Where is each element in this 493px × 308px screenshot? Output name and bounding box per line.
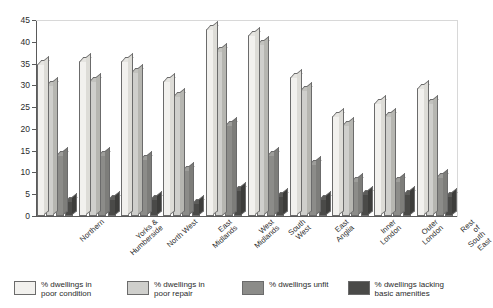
bar-side-face	[400, 173, 405, 215]
bar-side-face	[189, 162, 194, 215]
bar-group	[331, 20, 373, 216]
y-tick-label: 20	[21, 125, 30, 134]
bar-group	[78, 20, 120, 216]
bar-side-face	[307, 82, 312, 215]
y-tick-label: 40	[21, 38, 30, 47]
bar-side-face	[381, 95, 386, 215]
legend-item[interactable]: % dwellings unfit	[242, 280, 344, 295]
bar-side-face	[452, 188, 457, 215]
bar-group	[36, 20, 78, 216]
bar-side-face	[180, 88, 185, 215]
bar-0	[290, 77, 298, 216]
bar-side-face	[115, 191, 120, 215]
y-tick-label: 10	[21, 168, 30, 177]
y-tick-label: 35	[21, 59, 30, 68]
bar-0	[121, 61, 129, 216]
bar-side-face	[44, 56, 49, 215]
bar-side-face	[358, 173, 363, 215]
bar-0	[332, 116, 340, 216]
bar-group	[289, 20, 331, 216]
legend-label: % dwellings lacking basic amenities	[375, 280, 444, 299]
bar-side-face	[316, 156, 321, 215]
y-tick-label: 30	[21, 81, 30, 90]
bar-side-face	[96, 73, 101, 215]
legend-swatch-poor-repair	[127, 281, 149, 295]
bar-group	[120, 20, 162, 216]
legend-item[interactable]: % dwellings in poor condition	[14, 280, 123, 299]
x-category-label: West Midlands	[248, 218, 282, 251]
bar-side-face	[128, 53, 133, 215]
x-category-label: South West	[287, 218, 313, 243]
bar-side-face	[443, 169, 448, 215]
bar-side-face	[326, 191, 331, 215]
legend-swatch-lacking-amenities	[348, 281, 370, 295]
bar-side-face	[391, 108, 396, 215]
legend-label: % dwellings in poor repair	[154, 280, 205, 299]
legend-label: % dwellings in poor condition	[41, 280, 92, 299]
bar-group	[374, 20, 416, 216]
y-tick-label: 45	[21, 16, 30, 25]
bar-side-face	[274, 147, 279, 215]
legend-swatch-unfit	[242, 281, 264, 295]
bar-side-face	[86, 53, 91, 215]
x-category-label: East Anglia	[330, 218, 357, 244]
bar-side-face	[424, 80, 429, 215]
bar-side-face	[297, 69, 302, 215]
y-tick-label: 15	[21, 146, 30, 155]
bar-side-face	[241, 182, 246, 215]
x-category-label: Outer London	[415, 218, 445, 247]
x-category-label: Yorks & Humberside	[124, 218, 165, 258]
bar-group	[416, 20, 458, 216]
bar-side-face	[213, 21, 218, 215]
y-tick-mark	[32, 216, 36, 217]
bar-side-face	[157, 191, 162, 215]
bar-side-face	[147, 151, 152, 215]
x-category-label: North West	[165, 218, 199, 249]
bar-side-face	[433, 95, 438, 215]
bar-0	[417, 88, 425, 216]
y-tick-label: 25	[21, 103, 30, 112]
bar-side-face	[53, 77, 58, 215]
bar-side-face	[63, 147, 68, 215]
bar-side-face	[339, 108, 344, 215]
legend-item[interactable]: % dwellings lacking basic amenities	[348, 280, 464, 299]
bar-group	[163, 20, 205, 216]
plot-area: 051015202530354045	[36, 20, 458, 216]
bar-side-face	[255, 27, 260, 215]
legend-item[interactable]: % dwellings in poor repair	[127, 280, 238, 299]
bar-side-face	[410, 186, 415, 215]
x-category-label: Inner London	[373, 218, 403, 247]
bar-0	[206, 29, 214, 216]
x-axis-category-labels: NorthernYorks & HumbersideNorth WestEast…	[36, 218, 458, 276]
bar-side-face	[283, 188, 288, 215]
bar-side-face	[222, 43, 227, 215]
y-tick-label: 0	[25, 212, 30, 221]
bar-side-face	[170, 73, 175, 215]
bar-0	[374, 103, 382, 216]
bar-side-face	[72, 193, 77, 215]
x-category-label: Northern	[79, 218, 106, 244]
bar-side-face	[264, 36, 269, 215]
bar-group	[247, 20, 289, 216]
bar-0	[37, 64, 45, 216]
bar-side-face	[349, 117, 354, 215]
y-tick-label: 5	[25, 190, 30, 199]
bar-side-face	[199, 195, 204, 215]
bar-group	[205, 20, 247, 216]
legend-swatch-poor-condition	[14, 281, 36, 295]
bar-side-face	[232, 117, 237, 215]
x-category-label: East Midlands	[205, 218, 239, 251]
bar-side-face	[368, 186, 373, 215]
bar-side-face	[105, 147, 110, 215]
bar-side-face	[138, 64, 143, 215]
bar-0	[248, 35, 256, 216]
x-category-label: Rest of South East	[456, 218, 493, 256]
bar-0	[79, 61, 87, 216]
chart-legend: % dwellings in poor condition% dwellings…	[6, 280, 464, 306]
bar-0	[163, 81, 171, 216]
legend-label: % dwellings unfit	[269, 280, 329, 289]
